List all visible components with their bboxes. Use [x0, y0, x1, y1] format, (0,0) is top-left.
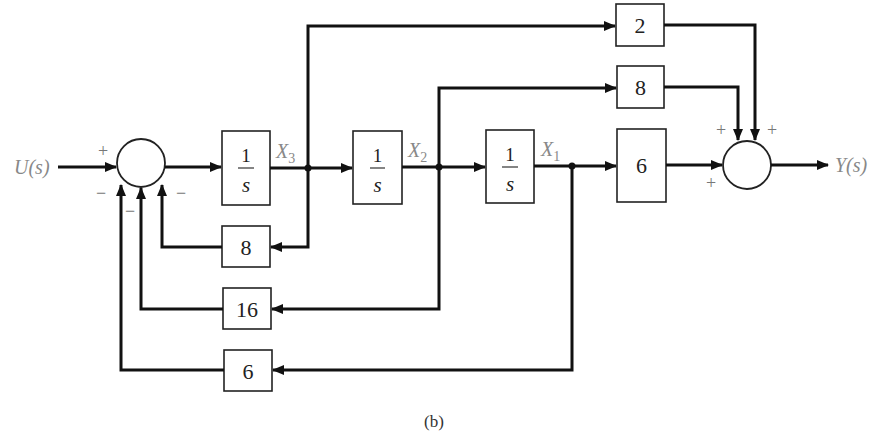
- feedback-gain-x1: 6: [224, 350, 272, 391]
- input-label: U(s): [14, 156, 50, 179]
- output-plus-sign-x3: +: [767, 120, 777, 140]
- gain-2-to-output-summer-wire: [664, 25, 755, 140]
- svg-text:s: s: [242, 173, 250, 197]
- feedback-gain-x2: 16: [223, 288, 271, 329]
- x3-to-feedback-8-wire: [271, 168, 308, 247]
- integrator-block-x3: 1 s: [222, 131, 270, 205]
- input-plus-sign: +: [98, 141, 108, 161]
- svg-text:s: s: [373, 173, 381, 197]
- state-label-x2: X2: [407, 139, 427, 165]
- figure-caption: (b): [424, 412, 444, 431]
- svg-text:8: 8: [241, 235, 252, 260]
- feedforward-gain-x3: 2: [616, 4, 664, 46]
- input-minus-sign-x2: −: [125, 201, 135, 221]
- svg-text:16: 16: [236, 297, 258, 322]
- integrator-block-x1: 1 s: [486, 130, 534, 203]
- block-diagram: U(s) + − − − 1 s X3 1 s X2 1 s X1 6: [0, 0, 870, 436]
- svg-text:8: 8: [635, 75, 646, 100]
- input-minus-sign-x3: −: [176, 183, 186, 203]
- state-label-x1: X1: [540, 138, 560, 164]
- svg-text:6: 6: [636, 153, 647, 178]
- svg-text:1: 1: [373, 145, 383, 166]
- input-minus-sign-x1: −: [96, 183, 106, 203]
- feedforward-gain-x1: 6: [617, 129, 666, 202]
- gain-8-to-output-summer-wire: [664, 87, 738, 140]
- svg-text:6: 6: [243, 359, 254, 384]
- feedback-6-to-summer-wire: [121, 185, 224, 370]
- feedback-8-to-summer-wire: [162, 185, 222, 247]
- feedback-gain-x3: 8: [222, 226, 270, 267]
- svg-text:2: 2: [635, 13, 646, 38]
- output-plus-sign-x2: +: [716, 120, 726, 140]
- output-label: Y(s): [835, 154, 868, 177]
- output-plus-sign-x1: +: [706, 173, 716, 193]
- svg-text:1: 1: [241, 145, 251, 166]
- svg-text:s: s: [506, 172, 514, 196]
- input-summing-junction: [117, 139, 165, 187]
- output-summing-junction: [723, 141, 771, 189]
- integrator-block-x2: 1 s: [353, 131, 402, 204]
- svg-text:1: 1: [505, 144, 515, 165]
- feedforward-gain-x2: 8: [617, 66, 664, 108]
- state-label-x3: X3: [275, 140, 295, 166]
